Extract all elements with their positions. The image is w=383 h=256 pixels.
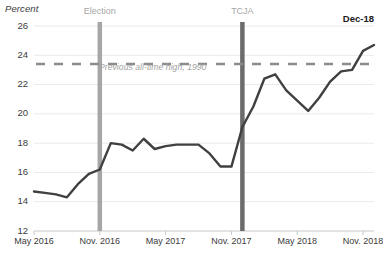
marker-label-election: Election bbox=[84, 6, 116, 16]
x-axis-tick-label: May 2018 bbox=[277, 236, 317, 246]
y-axis-tick-label: 16 bbox=[6, 166, 28, 177]
x-axis-tick-label: May 2017 bbox=[146, 236, 186, 246]
y-axis-tick-label: 22 bbox=[6, 78, 28, 89]
y-axis-tick-label: 12 bbox=[6, 225, 28, 236]
threshold-annotation: Previous all-time high, 1990 bbox=[99, 62, 206, 72]
x-axis-tick-label: Nov. 2018 bbox=[343, 236, 383, 246]
y-axis-tick-label: 18 bbox=[6, 137, 28, 148]
y-axis-tick-label: 20 bbox=[6, 107, 28, 118]
endpoint-callout: Dec-18 bbox=[343, 13, 374, 24]
y-axis-tick-label: 24 bbox=[6, 49, 28, 60]
y-axis-tick-label: 26 bbox=[6, 20, 28, 31]
marker-label-tcja: TCJA bbox=[231, 6, 254, 16]
x-axis-tick-label: Nov. 2016 bbox=[80, 236, 120, 246]
x-axis-tick-label: May 2016 bbox=[14, 236, 54, 246]
x-axis-tick-label: Nov. 2017 bbox=[211, 236, 251, 246]
y-axis-tick-label: 14 bbox=[6, 195, 28, 206]
